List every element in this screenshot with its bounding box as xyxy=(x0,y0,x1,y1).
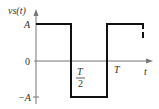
y-axis-arrow-icon xyxy=(34,9,39,16)
tick-label-zero: 0 xyxy=(25,56,30,67)
tick-label-half-period-numerator: T xyxy=(77,66,84,77)
x-axis-arrow-icon xyxy=(146,59,153,64)
square-wave-diagram: vs(t) A 0 −A T 2 T t xyxy=(0,0,159,109)
tick-label-a: A xyxy=(23,19,31,30)
tick-label-neg-a: −A xyxy=(18,92,32,103)
x-axis-label: t xyxy=(144,66,147,77)
tick-label-half-period-denominator: 2 xyxy=(78,78,83,89)
tick-label-period: T xyxy=(114,64,121,75)
y-axis-label: vs(t) xyxy=(8,5,26,17)
